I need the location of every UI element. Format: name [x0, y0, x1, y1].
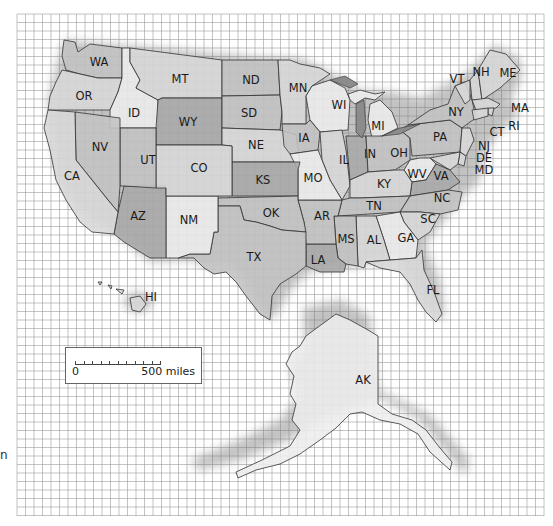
state-label-sd: SD: [241, 106, 257, 120]
state-label-ar: AR: [314, 209, 330, 223]
state-label-ks: KS: [256, 173, 271, 187]
map-canvas: WAORIDMTWYNDSDNEMNWIMIIAILINOHPANYVTNHME…: [0, 0, 553, 526]
state-label-wa: WA: [90, 55, 109, 69]
state-label-va: VA: [434, 169, 449, 183]
state-label-ct: CT: [489, 125, 505, 139]
state-label-tn: TN: [365, 199, 382, 213]
state-label-mi: MI: [371, 119, 384, 133]
state-label-nm: NM: [180, 213, 199, 227]
state-label-wy: WY: [179, 115, 198, 129]
scale-bar-box: 0 500 miles: [65, 347, 202, 384]
state-label-ky: KY: [377, 177, 392, 191]
state-label-ca: CA: [64, 169, 80, 183]
state-label-id: ID: [128, 106, 140, 120]
scale-tick: [109, 361, 110, 365]
state-label-pa: PA: [433, 130, 447, 144]
state-hi: [98, 282, 146, 312]
scale-tick: [126, 361, 127, 365]
state-label-al: AL: [367, 233, 382, 247]
state-label-ak: AK: [355, 373, 371, 387]
state-label-hi: HI: [145, 290, 157, 304]
state-label-in: IN: [364, 147, 376, 161]
state-label-or: OR: [75, 89, 92, 103]
state-label-ia: IA: [298, 131, 309, 145]
state-label-la: LA: [311, 253, 326, 267]
state-label-mt: MT: [172, 72, 190, 86]
state-label-az: AZ: [130, 209, 146, 223]
state-label-ri: RI: [508, 119, 519, 133]
scale-tick: [118, 361, 119, 365]
state-label-ga: GA: [398, 231, 415, 245]
state-label-oh: OH: [390, 146, 408, 160]
state-label-nd: ND: [242, 73, 260, 87]
state-label-me: ME: [499, 66, 516, 80]
state-label-ma: MA: [511, 101, 529, 115]
state-label-fl: FL: [426, 283, 440, 297]
state-label-ut: UT: [140, 153, 156, 167]
state-label-sc: SC: [420, 212, 435, 226]
state-ak: [236, 314, 452, 478]
scale-tick: [135, 361, 136, 365]
state-label-nh: NH: [472, 65, 489, 79]
state-label-md: MD: [475, 163, 494, 177]
state-label-il: IL: [339, 153, 349, 167]
state-label-wi: WI: [332, 98, 347, 112]
state-label-nv: NV: [92, 140, 109, 154]
state-label-mo: MO: [304, 171, 323, 185]
us-map: WAORIDMTWYNDSDNEMNWIMIIAILINOHPANYVTNHME…: [0, 0, 553, 526]
state-label-nc: NC: [434, 191, 451, 205]
cropped-edge-text: n: [0, 448, 8, 462]
state-label-tx: TX: [246, 250, 262, 264]
state-label-ne: NE: [248, 138, 264, 152]
scale-distance-label: 500 miles: [141, 365, 195, 378]
scale-tick: [92, 361, 93, 365]
state-label-co: CO: [190, 161, 207, 175]
state-nm: [166, 196, 218, 258]
scale-tick: [101, 361, 102, 365]
state-label-wv: WV: [407, 167, 426, 181]
state-label-ms: MS: [337, 232, 354, 246]
state-label-vt: VT: [450, 72, 466, 86]
state-label-mn: MN: [289, 81, 308, 95]
scale-tick: [84, 361, 85, 365]
state-label-ok: OK: [263, 206, 280, 220]
state-label-ny: NY: [448, 105, 465, 119]
scale-zero-label: 0: [72, 365, 79, 378]
